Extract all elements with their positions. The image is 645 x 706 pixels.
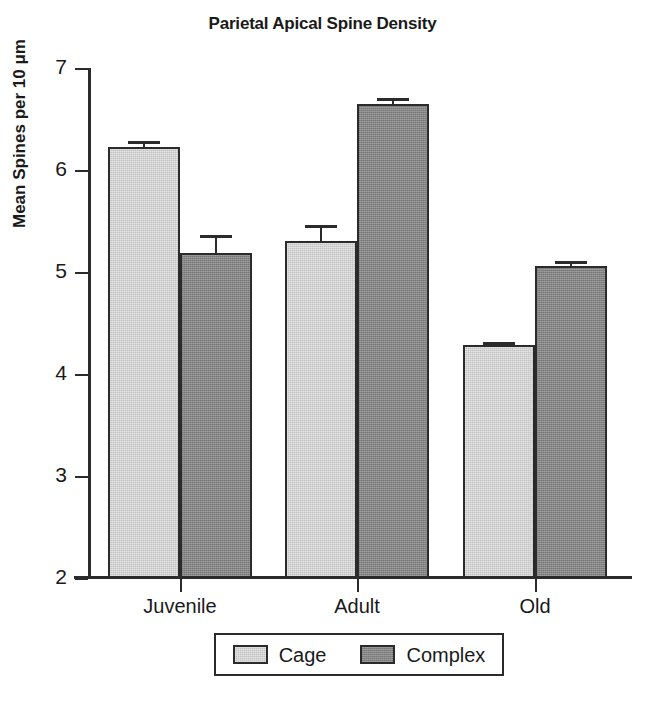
y-axis-tick: 7 bbox=[75, 68, 88, 70]
y-axis-tick-label: 3 bbox=[55, 463, 67, 487]
bar-juvenile-complex bbox=[180, 253, 252, 578]
legend-swatch-complex bbox=[360, 645, 395, 664]
x-axis-tick bbox=[357, 579, 359, 592]
legend-label-complex: Complex bbox=[406, 644, 485, 666]
plot-area: 234567 JuvenileAdultOld bbox=[88, 68, 632, 578]
bar-old-cage bbox=[463, 345, 535, 578]
x-axis-category-label: Juvenile bbox=[143, 594, 216, 618]
chart-title: Parietal Apical Spine Density bbox=[0, 14, 645, 34]
x-axis-tick bbox=[180, 579, 182, 592]
error-bar-cap bbox=[128, 141, 160, 144]
y-axis-tick: 4 bbox=[75, 374, 88, 376]
x-axis-category-label: Old bbox=[519, 594, 550, 618]
y-axis-tick: 5 bbox=[75, 272, 88, 274]
y-axis-tick-label: 4 bbox=[55, 361, 67, 385]
y-axis-tick-label: 5 bbox=[55, 259, 67, 283]
y-axis-tick: 3 bbox=[75, 476, 88, 478]
y-axis-tick: 6 bbox=[75, 170, 88, 172]
error-bar-cap bbox=[305, 225, 337, 228]
y-axis-title: Mean Spines per 10 μm bbox=[10, 200, 30, 228]
bar-adult-cage bbox=[285, 241, 357, 578]
bar-chart: Parietal Apical Spine Density Mean Spine… bbox=[0, 0, 645, 706]
error-bar-cap bbox=[483, 342, 515, 345]
legend-item-cage[interactable]: Cage bbox=[233, 644, 327, 666]
x-axis-category-label: Adult bbox=[334, 594, 380, 618]
legend-item-complex[interactable]: Complex bbox=[360, 644, 485, 666]
bar-old-complex bbox=[535, 266, 607, 578]
y-axis-tick-label: 6 bbox=[55, 157, 67, 181]
y-axis-tick: 2 bbox=[75, 578, 88, 580]
error-bar-cap bbox=[200, 235, 232, 238]
bar-juvenile-cage bbox=[108, 147, 180, 578]
error-bar-cap bbox=[377, 98, 409, 101]
x-axis-tick bbox=[535, 579, 537, 592]
y-axis-tick-label: 2 bbox=[55, 565, 67, 589]
legend-swatch-cage bbox=[233, 645, 268, 664]
legend-label-cage: Cage bbox=[279, 644, 327, 666]
y-axis-tick-label: 7 bbox=[55, 55, 67, 79]
y-axis-line bbox=[88, 68, 91, 579]
chart-legend: CageComplex bbox=[214, 633, 504, 676]
bar-adult-complex bbox=[357, 104, 429, 578]
error-bar-cap bbox=[555, 261, 587, 264]
